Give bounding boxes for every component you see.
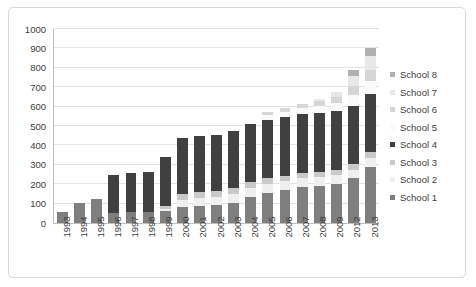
bar-segment xyxy=(331,103,342,112)
x-label-slot: 1995 xyxy=(87,225,104,271)
legend-swatch-icon xyxy=(390,142,395,147)
bar-slot xyxy=(259,29,276,223)
legend-item[interactable]: School 2 xyxy=(390,171,462,189)
stacked-bar[interactable] xyxy=(177,138,188,223)
bar-segment xyxy=(314,113,325,171)
x-label-slot: 2004 xyxy=(241,225,258,271)
bar-segment xyxy=(365,70,376,82)
bar-slot xyxy=(140,29,157,223)
y-tick-label: 600 xyxy=(30,102,46,112)
bar-segment xyxy=(348,95,359,106)
x-label-slot: 1994 xyxy=(70,225,87,271)
legend-item-label: School 1 xyxy=(400,193,437,203)
stacked-bar[interactable] xyxy=(331,92,342,223)
legend-item-label: School 8 xyxy=(400,70,437,80)
stacked-bar[interactable] xyxy=(228,129,239,223)
x-label-slot: 1996 xyxy=(104,225,121,271)
legend-item-label: School 4 xyxy=(400,140,437,150)
plot-area xyxy=(53,29,379,224)
bar-segment xyxy=(365,158,376,167)
y-tick-label: 700 xyxy=(30,82,46,92)
x-label-slot: 2005 xyxy=(258,225,275,271)
stacked-bar[interactable] xyxy=(262,112,273,223)
x-axis-tick-labels: 1993199419951996199719981999200020012002… xyxy=(53,225,378,271)
bar-slot xyxy=(105,29,122,223)
bar-slot xyxy=(88,29,105,223)
bar-slot xyxy=(345,29,362,223)
stacked-bar[interactable] xyxy=(245,120,256,223)
stacked-bar[interactable] xyxy=(348,70,359,223)
bar-segment xyxy=(160,157,171,206)
legend-swatch-icon xyxy=(390,125,395,130)
bar-segment xyxy=(143,172,154,213)
bar-segment xyxy=(365,167,376,223)
stacked-bar[interactable] xyxy=(211,135,222,223)
stacked-bar[interactable] xyxy=(314,99,325,223)
legend-swatch-icon xyxy=(390,195,395,200)
bar-series-group xyxy=(54,29,379,223)
bar-slot xyxy=(311,29,328,223)
bar-segment xyxy=(348,86,359,95)
legend-item[interactable]: School 5 xyxy=(390,119,462,137)
bar-segment xyxy=(365,81,376,94)
bar-slot xyxy=(242,29,259,223)
x-label-slot: 2001 xyxy=(190,225,207,271)
y-tick-label: 500 xyxy=(30,121,46,131)
y-tick-label: 300 xyxy=(30,160,46,170)
chart-figure: 01002003004005006007008009001000 1993199… xyxy=(8,7,466,278)
x-label-slot: 1999 xyxy=(156,225,173,271)
y-tick-label: 0 xyxy=(41,218,46,228)
x-label-slot: 1997 xyxy=(121,225,138,271)
bar-segment xyxy=(177,200,188,207)
x-label-slot: 2006 xyxy=(275,225,292,271)
legend-swatch-icon xyxy=(390,90,395,95)
legend-item[interactable]: School 3 xyxy=(390,154,462,172)
bar-segment xyxy=(228,194,239,203)
bar-slot xyxy=(276,29,293,223)
bar-slot xyxy=(191,29,208,223)
stacked-bar[interactable] xyxy=(365,48,376,224)
x-label-slot: 2007 xyxy=(293,225,310,271)
x-label-slot: 2002 xyxy=(207,225,224,271)
stacked-bar[interactable] xyxy=(143,172,154,223)
legend-swatch-icon xyxy=(390,72,395,77)
legend-item[interactable]: School 1 xyxy=(390,189,462,207)
x-label-slot: 2008 xyxy=(310,225,327,271)
bar-segment xyxy=(228,131,239,188)
bar-segment xyxy=(126,173,137,213)
chart-legend: School 8School 7School 6School 5School 4… xyxy=(390,66,462,206)
legend-swatch-icon xyxy=(390,107,395,112)
bar-segment xyxy=(314,177,325,186)
legend-item-label: School 3 xyxy=(400,158,437,168)
legend-item[interactable]: School 8 xyxy=(390,66,462,84)
y-tick-label: 900 xyxy=(30,44,46,54)
bar-segment xyxy=(280,181,291,190)
x-label-slot: 2012 xyxy=(344,225,361,271)
bar-segment xyxy=(348,170,359,179)
bar-segment xyxy=(194,198,205,206)
stacked-bar[interactable] xyxy=(280,108,291,223)
stacked-bar[interactable] xyxy=(194,136,205,223)
bar-slot xyxy=(225,29,242,223)
bar-segment xyxy=(314,106,325,114)
legend-item[interactable]: School 7 xyxy=(390,84,462,102)
stacked-bar[interactable] xyxy=(297,104,308,223)
bar-slot xyxy=(208,29,225,223)
bar-slot xyxy=(174,29,191,223)
legend-item-label: School 6 xyxy=(400,105,437,115)
x-label-slot: 1993 xyxy=(53,225,70,271)
legend-swatch-icon xyxy=(390,177,395,182)
x-label-slot: 2000 xyxy=(173,225,190,271)
legend-item-label: School 5 xyxy=(400,123,437,133)
legend-item[interactable]: School 6 xyxy=(390,101,462,119)
legend-item[interactable]: School 4 xyxy=(390,136,462,154)
stacked-bar[interactable] xyxy=(126,173,137,223)
bar-segment xyxy=(331,111,342,169)
bar-slot xyxy=(54,29,71,223)
bar-segment xyxy=(211,135,222,191)
bar-segment xyxy=(297,178,308,187)
bar-slot xyxy=(328,29,345,223)
x-label-slot: 2009 xyxy=(327,225,344,271)
bar-segment xyxy=(245,188,256,197)
stacked-bar[interactable] xyxy=(160,157,171,223)
